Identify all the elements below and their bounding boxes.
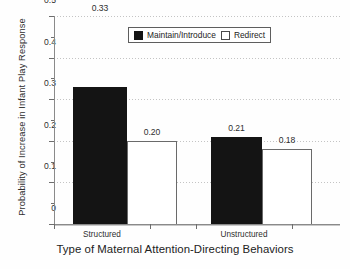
x-category-label-structured: Structured <box>62 230 142 239</box>
y-tick-0-5 <box>49 16 54 17</box>
plot-area: 0.33 0.20 0.21 0.18 <box>54 16 340 224</box>
legend-swatch-hollow-icon <box>221 31 230 40</box>
y-tick-0-3 <box>49 99 54 100</box>
x-tick-start <box>54 224 55 229</box>
gridline-0-4 <box>54 58 340 59</box>
y-tick-minor-0-25 <box>51 120 54 121</box>
y-tick-0-2 <box>49 141 54 142</box>
x-category-label-unstructured: Unstructured <box>198 230 290 239</box>
legend-item-redirect[interactable]: Redirect <box>221 30 265 40</box>
x-tick-mid-2 <box>196 224 197 229</box>
y-tick-label-0-3: 0.3 <box>16 78 56 88</box>
bar-value-structured-maintain-introduce: 0.33 <box>73 3 127 13</box>
x-axis-line-shadow <box>54 225 340 226</box>
y-tick-label-0-4: 0.4 <box>16 37 56 47</box>
x-axis-title: Type of Maternal Attention-Directing Beh… <box>0 243 350 255</box>
y-tick-label-0-2: 0.2 <box>16 120 56 130</box>
gridline-0-5 <box>54 16 340 17</box>
chart-page: Probability of Increase in Infant Play R… <box>0 0 350 269</box>
bar-unstructured-redirect[interactable] <box>262 149 312 224</box>
legend-label-maintain-introduce: Maintain/Introduce <box>147 30 216 40</box>
y-tick-label-0-1: 0.1 <box>16 161 56 171</box>
y-tick-0-4 <box>49 58 54 59</box>
bar-unstructured-maintain-introduce[interactable] <box>211 137 262 224</box>
bar-value-unstructured-maintain-introduce: 0.21 <box>211 123 262 133</box>
x-tick-mid-1 <box>150 224 151 229</box>
y-tick-label-0-5: 0.5 <box>16 0 56 5</box>
legend-label-redirect: Redirect <box>234 30 265 40</box>
y-tick-minor-0-45 <box>51 37 54 38</box>
y-tick-minor-0-35 <box>51 78 54 79</box>
y-tick-label-0: 0 <box>16 203 56 213</box>
bar-structured-redirect[interactable] <box>127 141 177 224</box>
y-tick-minor-0-15 <box>51 162 54 163</box>
y-tick-0-1 <box>49 182 54 183</box>
y-tick-minor-0-05 <box>51 203 54 204</box>
x-tick-mid-3 <box>292 224 293 229</box>
chart-legend[interactable]: Maintain/Introduce Redirect <box>128 27 271 43</box>
bar-value-unstructured-redirect: 0.18 <box>262 135 312 145</box>
bar-structured-maintain-introduce[interactable] <box>73 87 127 224</box>
y-axis-line <box>54 16 55 224</box>
bar-value-structured-redirect: 0.20 <box>127 127 177 137</box>
legend-item-maintain-introduce[interactable]: Maintain/Introduce <box>134 30 216 40</box>
legend-swatch-filled-icon <box>134 31 143 40</box>
